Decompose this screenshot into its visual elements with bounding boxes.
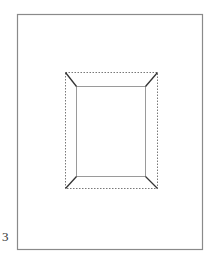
page-number: 3: [2, 229, 9, 245]
outer-frame-dashed: [66, 73, 158, 189]
page-border: [18, 15, 203, 250]
miter-top-right: [146, 73, 158, 87]
miter-bottom-right: [146, 177, 158, 189]
miter-bottom-left: [66, 177, 77, 189]
frame-diagram: [0, 0, 214, 264]
miter-top-left: [66, 73, 77, 87]
inner-opening: [77, 87, 146, 177]
